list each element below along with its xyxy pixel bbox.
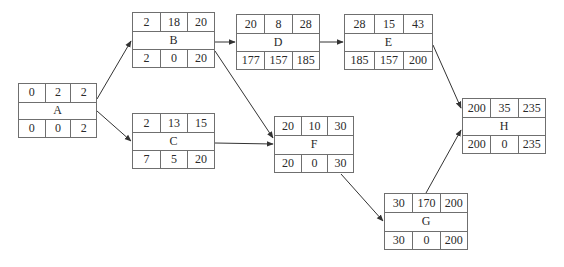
latest-finish-cell: 200: [403, 52, 432, 69]
total-float-cell: 157: [264, 52, 291, 69]
node-bottom-row: 7520: [133, 150, 214, 168]
node-name: E: [345, 33, 432, 51]
latest-start-cell: 2: [133, 50, 160, 67]
latest-finish-cell: 185: [292, 52, 319, 69]
edge-a-b: [97, 41, 131, 99]
duration-cell: 15: [374, 15, 403, 33]
node-f: 201030F20030: [274, 116, 354, 173]
earliest-start-cell: 20: [237, 15, 264, 33]
earliest-finish-cell: 235: [518, 99, 545, 117]
duration-cell: 13: [160, 114, 187, 132]
node-b: 21820B2020: [132, 12, 215, 68]
node-name: F: [275, 135, 353, 153]
duration-cell: 10: [301, 117, 327, 135]
total-float-cell: 5: [160, 151, 187, 168]
latest-start-cell: 20: [275, 155, 301, 172]
total-float-cell: 0: [301, 155, 327, 172]
node-top-row: 21315: [133, 114, 214, 132]
node-top-row: 022: [19, 84, 96, 102]
earliest-start-cell: 0: [19, 84, 45, 102]
node-name: G: [385, 212, 467, 230]
duration-cell: 18: [160, 13, 187, 31]
latest-start-cell: 7: [133, 151, 160, 168]
node-top-row: 201030: [275, 117, 353, 135]
duration-cell: 8: [264, 15, 291, 33]
latest-start-cell: 177: [237, 52, 264, 69]
node-name: C: [133, 132, 214, 150]
total-float-cell: 0: [490, 136, 517, 153]
total-float-cell: 0: [45, 120, 71, 137]
total-float-cell: 0: [160, 50, 187, 67]
node-a: 022A002: [18, 83, 97, 138]
node-bottom-row: 185157200: [345, 51, 432, 69]
node-name: D: [237, 33, 319, 51]
duration-cell: 35: [490, 99, 517, 117]
latest-finish-cell: 200: [440, 232, 467, 249]
latest-finish-cell: 2: [70, 120, 96, 137]
node-bottom-row: 300200: [385, 231, 467, 249]
earliest-start-cell: 30: [385, 194, 412, 212]
node-top-row: 20828: [237, 15, 319, 33]
latest-start-cell: 185: [345, 52, 374, 69]
total-float-cell: 157: [374, 52, 403, 69]
earliest-finish-cell: 43: [403, 15, 432, 33]
latest-finish-cell: 235: [518, 136, 545, 153]
node-bottom-row: 20030: [275, 154, 353, 172]
node-name: A: [19, 102, 96, 120]
node-top-row: 21820: [133, 13, 214, 31]
node-top-row: 30170200: [385, 194, 467, 212]
node-bottom-row: 2020: [133, 49, 214, 67]
latest-start-cell: 30: [385, 232, 412, 249]
earliest-finish-cell: 28: [292, 15, 319, 33]
node-e: 281543E185157200: [344, 14, 433, 70]
latest-finish-cell: 30: [327, 155, 353, 172]
duration-cell: 2: [45, 84, 71, 102]
node-name: B: [133, 31, 214, 49]
node-h: 20035235H2000235: [462, 98, 546, 154]
node-top-row: 281543: [345, 15, 432, 33]
duration-cell: 170: [412, 194, 439, 212]
earliest-finish-cell: 200: [440, 194, 467, 212]
latest-finish-cell: 20: [187, 50, 214, 67]
edge-c-f: [215, 143, 273, 144]
latest-start-cell: 0: [19, 120, 45, 137]
total-float-cell: 0: [412, 232, 439, 249]
latest-finish-cell: 20: [187, 151, 214, 168]
node-name: H: [463, 117, 545, 135]
edge-g-h: [426, 130, 461, 193]
node-bottom-row: 002: [19, 119, 96, 137]
earliest-start-cell: 200: [463, 99, 490, 117]
earliest-finish-cell: 20: [187, 13, 214, 31]
node-c: 21315C7520: [132, 113, 215, 169]
earliest-start-cell: 2: [133, 114, 160, 132]
node-bottom-row: 177157185: [237, 51, 319, 69]
node-bottom-row: 2000235: [463, 135, 545, 153]
edge-f-g: [341, 174, 383, 221]
earliest-finish-cell: 30: [327, 117, 353, 135]
node-g: 30170200G300200: [384, 193, 468, 250]
earliest-finish-cell: 2: [70, 84, 96, 102]
earliest-start-cell: 2: [133, 13, 160, 31]
edge-a-c: [97, 111, 131, 141]
earliest-finish-cell: 15: [187, 114, 214, 132]
latest-start-cell: 200: [463, 136, 490, 153]
edge-e-h: [433, 45, 461, 108]
node-top-row: 20035235: [463, 99, 545, 117]
earliest-start-cell: 28: [345, 15, 374, 33]
node-d: 20828D177157185: [236, 14, 320, 70]
earliest-start-cell: 20: [275, 117, 301, 135]
